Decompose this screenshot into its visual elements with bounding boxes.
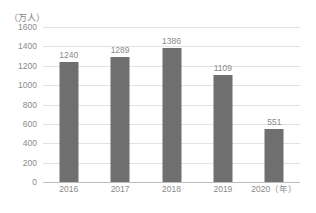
bar-value-label: 1289 <box>111 45 130 55</box>
y-axis-tick-label: 1400 <box>18 42 37 51</box>
bar-group: 1109 <box>201 27 245 182</box>
bar-value-label: 1240 <box>59 50 78 60</box>
y-axis-tick-label: 800 <box>23 100 37 109</box>
bar-group: 551 <box>252 27 296 182</box>
y-axis-tick-label: 1600 <box>18 23 37 32</box>
bar-group: 1240 <box>47 27 91 182</box>
y-axis-tick-label: 0 <box>32 178 37 187</box>
x-axis-tick-label: 2020（年） <box>244 184 304 195</box>
y-axis-tick-label: 1000 <box>18 81 37 90</box>
y-axis-tick-label: 1200 <box>18 61 37 70</box>
bar <box>59 62 78 182</box>
bar <box>213 75 232 182</box>
bar <box>162 48 181 182</box>
bar <box>265 129 284 182</box>
x-axis-tick-labels: 20162017201820192020（年） <box>43 184 300 200</box>
y-axis-tick-label: 200 <box>23 158 37 167</box>
x-axis-line <box>43 182 300 183</box>
y-axis-tick-label: 400 <box>23 139 37 148</box>
bar-group: 1386 <box>150 27 194 182</box>
y-axis-tick-labels: 02004006008001000120014001600 <box>0 27 40 182</box>
bar-chart: （万人） 02004006008001000120014001600 12401… <box>0 0 316 213</box>
bar-group: 1289 <box>98 27 142 182</box>
bar-value-label: 1386 <box>162 36 181 46</box>
y-axis-tick-label: 600 <box>23 119 37 128</box>
bar-value-label: 551 <box>267 117 281 127</box>
bar-value-label: 1109 <box>214 63 232 73</box>
bars-layer: 1240128913861109551 <box>43 27 300 182</box>
bar <box>111 57 130 182</box>
